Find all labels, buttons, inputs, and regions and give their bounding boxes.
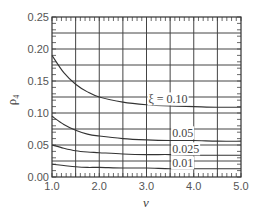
x-tick-label: 4.0 (186, 180, 201, 192)
y-axis-label-subscript: 4 (12, 95, 21, 99)
y-axis-label: ρ4 (4, 95, 21, 106)
curve-label: ξ = 0.10 (149, 92, 188, 106)
y-tick-label: 0.15 (28, 75, 49, 87)
curve-label: 0.05 (172, 126, 193, 140)
x-tick-label: 5.0 (233, 180, 248, 192)
y-tick-label: 0.25 (28, 11, 49, 23)
x-tick-label: 1.0 (44, 180, 59, 192)
y-tick-labels: 0.000.050.100.150.200.25 (28, 11, 49, 183)
grid-lines (52, 17, 241, 177)
x-tick-label: 2.0 (92, 180, 107, 192)
y-tick-label: 0.05 (28, 139, 49, 151)
y-tick-label: 0.20 (28, 43, 49, 55)
curve-labels: ξ = 0.100.050.0250.01 (148, 92, 201, 170)
x-tick-label: 3.0 (139, 180, 154, 192)
x-axis-label: ν (143, 195, 149, 210)
y-tick-label: 0.10 (28, 107, 49, 119)
chart: 0.000.050.100.150.200.25 1.02.03.04.05.0… (0, 0, 258, 216)
curve-label: 0.025 (172, 142, 199, 156)
x-tick-labels: 1.02.03.04.05.0 (44, 180, 248, 192)
curve-label: 0.01 (172, 156, 193, 170)
